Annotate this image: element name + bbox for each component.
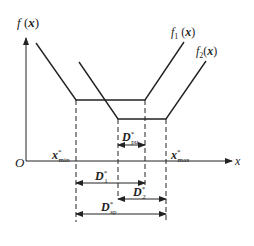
xmax-label: x*max (170, 148, 190, 164)
dim-pu-label: D*pu (121, 130, 139, 146)
curve-f1 (36, 42, 184, 100)
xmin-label: x*min (51, 148, 70, 164)
dim-sp-label: D*sp (100, 200, 117, 216)
curve-f2 (79, 61, 206, 119)
y-axis-label: f (x) (17, 15, 39, 30)
f2-label: f2(x) (196, 44, 217, 60)
f1-label: f1 (x) (171, 25, 195, 41)
x-axis-label: x (234, 154, 241, 168)
dim-1-label: D*1 (94, 169, 108, 185)
diagram-canvas: f (x) x O f1 (x) f2(x) x*min x*max D*pu … (0, 0, 254, 246)
origin-label: O (15, 155, 25, 170)
dimension-arrows (76, 145, 166, 214)
dim-2-label: D*2 (132, 185, 146, 201)
